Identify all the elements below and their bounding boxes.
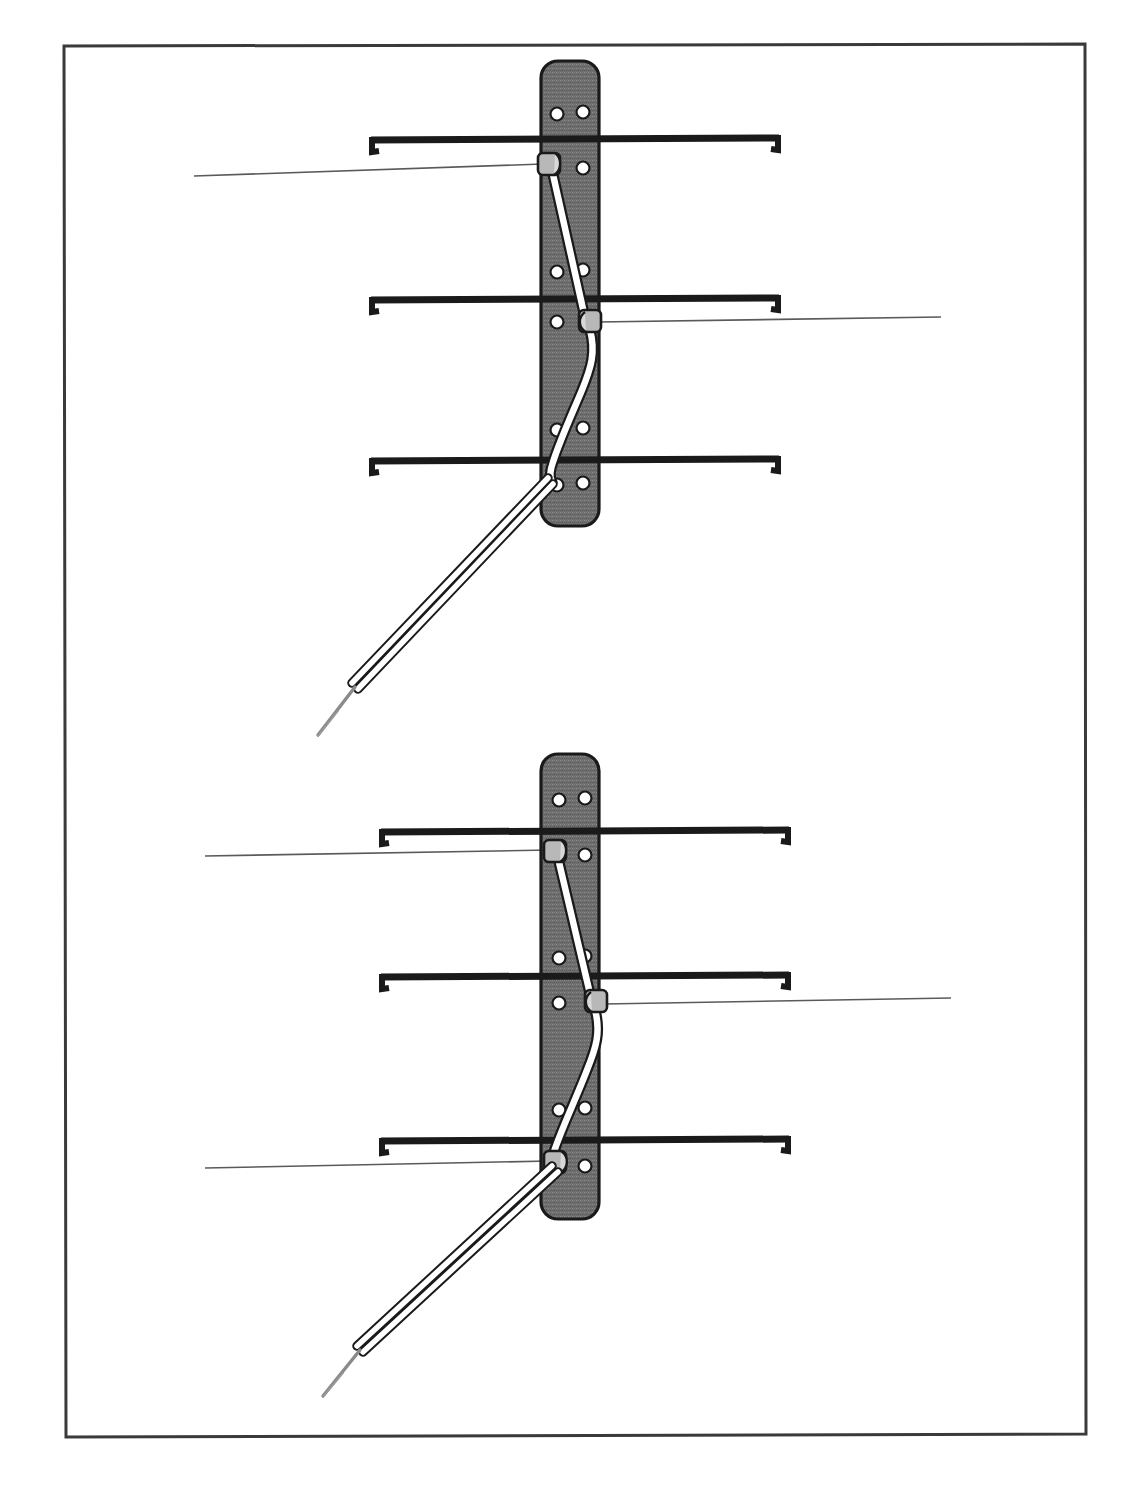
plate-hole (553, 952, 566, 965)
plate-hole (579, 849, 592, 862)
knot-middle-right-lower (585, 990, 607, 1012)
figure-page (0, 0, 1134, 1486)
plate-hole (577, 477, 590, 490)
plate-hole (579, 1160, 592, 1173)
figure-canvas (0, 0, 1134, 1486)
plate-hole (551, 266, 564, 279)
knot-proximal-left-lower (544, 840, 566, 862)
plate-hole (579, 792, 592, 805)
knot-middle-right-upper (579, 310, 601, 332)
plate-hole (579, 1102, 592, 1115)
plate-hole (553, 794, 566, 807)
plate-hole (577, 106, 590, 119)
plate-hole (551, 316, 564, 329)
knot-proximal-left-upper (538, 153, 560, 175)
plate-hole (553, 997, 566, 1010)
plate-hole (577, 162, 590, 175)
plate-hole (577, 422, 590, 435)
plate-hole (551, 108, 564, 121)
